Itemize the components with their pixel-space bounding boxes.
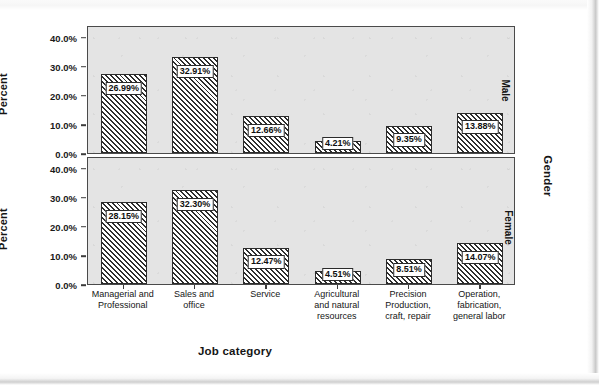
y-axis-tick-mark	[81, 255, 86, 257]
bar[interactable]: 9.35%	[386, 126, 432, 153]
bar-value-label: 4.51%	[322, 268, 354, 281]
scanned-page-background: 26.99%32.91%12.66%4.21%9.35%13.88% 0.0%1…	[0, 0, 599, 385]
y-axis-tick-label: 10.0%	[50, 250, 77, 261]
panel-strip-label-female: Female	[503, 210, 514, 244]
panel-male: 26.99%32.91%12.66%4.21%9.35%13.88%	[87, 26, 515, 154]
x-axis-category-label: Operation, fabrication, general labor	[444, 289, 515, 322]
y-axis-title-female: Percent	[0, 208, 9, 250]
bar[interactable]: 13.88%	[457, 113, 503, 153]
y-axis-tick-label: 20.0%	[50, 221, 77, 232]
y-axis-tick-label: 0.0%	[55, 280, 77, 291]
y-axis-tick-label: 40.0%	[50, 163, 77, 174]
bar[interactable]: 32.91%	[172, 57, 218, 153]
y-axis-ticks-male: 0.0%10.0%20.0%30.0%40.0%	[0, 26, 87, 154]
y-axis-tick-mark	[81, 197, 86, 199]
clustered-bar-chart-figure: 26.99%32.91%12.66%4.21%9.35%13.88% 0.0%1…	[0, 0, 585, 375]
y-axis-tick-mark	[81, 284, 86, 286]
y-axis-tick-mark	[81, 226, 86, 228]
bar[interactable]: 32.30%	[172, 190, 218, 284]
bar[interactable]: 8.51%	[386, 259, 432, 284]
x-axis-category-label: Precision Production, craft, repair	[372, 289, 443, 322]
x-axis-category-label: Sales and office	[158, 289, 229, 311]
bar[interactable]: 4.21%	[315, 141, 361, 153]
bar-value-label: 13.88%	[462, 120, 499, 133]
y-axis-tick-mark	[81, 95, 86, 97]
bar-value-label: 32.91%	[177, 65, 214, 78]
panel-axis-title-gender: Gender	[542, 155, 554, 196]
panel-strip-label-male: Male	[500, 79, 511, 101]
y-axis-tick-mark	[81, 124, 86, 126]
x-axis-title: Job category	[198, 345, 272, 357]
bar-value-label: 14.07%	[462, 251, 499, 264]
bar-value-label: 26.99%	[105, 82, 142, 95]
y-axis-tick-label: 30.0%	[50, 61, 77, 72]
bar-value-label: 32.30%	[177, 198, 214, 211]
bar[interactable]: 12.66%	[243, 116, 289, 153]
bar-value-label: 8.51%	[393, 263, 425, 276]
bar-value-label: 12.47%	[248, 255, 285, 268]
y-axis-tick-label: 30.0%	[50, 192, 77, 203]
y-axis-tick-label: 20.0%	[50, 90, 77, 101]
bar[interactable]: 12.47%	[243, 248, 289, 284]
x-axis-category-label: Managerial and Professional	[87, 289, 158, 311]
bar-value-label: 28.15%	[105, 210, 142, 223]
x-axis-category-label: Service	[230, 289, 301, 300]
bar-value-label: 4.21%	[322, 137, 354, 150]
y-axis-title-male: Percent	[0, 73, 9, 115]
plot-area-male	[88, 27, 514, 153]
bar[interactable]: 14.07%	[457, 243, 503, 284]
y-axis-tick-mark	[81, 66, 86, 68]
y-axis-tick-label: 10.0%	[50, 119, 77, 130]
plot-area-female	[88, 158, 514, 284]
y-axis-ticks-female: 0.0%10.0%20.0%30.0%40.0%	[0, 157, 87, 285]
scan-edge-right	[587, 0, 599, 385]
y-axis-tick-mark	[81, 168, 86, 170]
bar-value-label: 12.66%	[248, 124, 285, 137]
y-axis-tick-mark	[81, 153, 86, 155]
bar[interactable]: 4.51%	[315, 271, 361, 284]
y-axis-tick-mark	[81, 37, 86, 39]
bar-value-label: 9.35%	[393, 133, 425, 146]
bar[interactable]: 28.15%	[101, 202, 147, 284]
panel-female: 28.15%32.30%12.47%4.51%8.51%14.07%	[87, 157, 515, 285]
bar[interactable]: 26.99%	[101, 74, 147, 153]
y-axis-tick-label: 40.0%	[50, 32, 77, 43]
x-axis-category-label: Agricultural and natural resources	[301, 289, 372, 322]
